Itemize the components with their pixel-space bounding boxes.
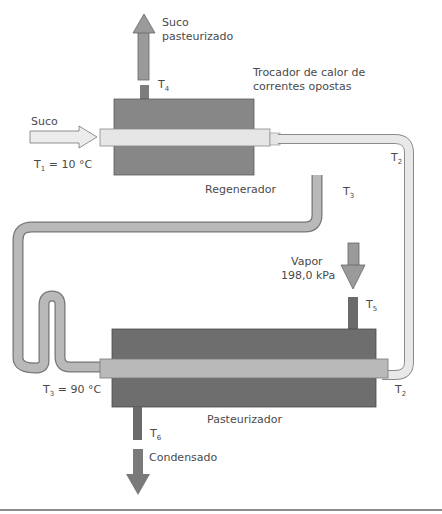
steam-label-line2: 198,0 kPa (281, 269, 335, 282)
t5-nozzle (348, 297, 358, 330)
t3-hot-label: T3 = 90 °C (42, 383, 101, 398)
condensate-arrow-down-icon (126, 449, 150, 495)
t2-regenerator-label: T2 (390, 151, 402, 166)
t2-pasteurizer-label: T2 (394, 383, 406, 398)
pasteurizer-tube (100, 359, 388, 378)
outlet-label-line2: pasteurizado (162, 30, 234, 43)
pasteurizer-label: Pasteurizador (207, 413, 282, 426)
inlet-label: Suco (31, 115, 58, 128)
t3-regenerator-label: T3 (342, 185, 354, 200)
inlet-arrow-right-icon (30, 126, 97, 148)
t1-label: T1 = 10 °C (33, 158, 92, 173)
regenerator-tube (100, 129, 270, 146)
steam-label-line1: Vapor (291, 255, 323, 268)
outlet-label-line1: Suco (162, 16, 189, 29)
steam-arrow-down-icon (341, 243, 365, 289)
t4-label: T4 (157, 78, 170, 93)
pasteurization-diagram: Suco pasteurizado T4 Trocador de calor d… (0, 0, 442, 514)
regenerator-label: Regenerador (205, 183, 276, 196)
t6-label: T6 (149, 427, 162, 442)
t4-nozzle (140, 85, 149, 100)
t6-drain (133, 407, 142, 440)
outlet-arrow-up-icon (133, 14, 155, 80)
t5-label: T5 (365, 298, 377, 313)
condensate-label: Condensado (149, 451, 218, 464)
exchanger-title-line2: correntes opostas (253, 80, 352, 93)
exchanger-title-line1: Trocador de calor de (252, 66, 365, 79)
